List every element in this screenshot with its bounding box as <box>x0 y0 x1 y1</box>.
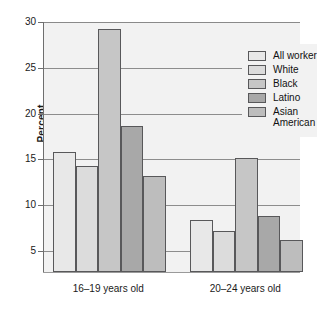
legend-item-label: All workers <box>273 50 317 61</box>
legend-swatch-icon <box>248 65 266 75</box>
legend-item[interactable]: Black <box>248 78 317 89</box>
x-axis-baseline <box>43 272 300 273</box>
legend-item[interactable]: White <box>248 64 317 75</box>
plot-top-border <box>44 22 300 23</box>
y-tick-label-10: 10 <box>2 200 36 210</box>
bar <box>258 216 281 272</box>
x-axis-group-label: 16–19 years old <box>48 283 168 294</box>
legend-swatch-icon <box>248 107 266 117</box>
y-tick-label-25: 25 <box>2 63 36 73</box>
legend-item[interactable]: Asian American <box>248 106 317 128</box>
y-tick-label-5: 5 <box>2 246 36 256</box>
bar <box>98 29 121 272</box>
bar <box>121 126 144 272</box>
legend-item[interactable]: Latino <box>248 92 317 103</box>
x-axis-group-label: 20–24 years old <box>185 283 305 294</box>
bar <box>280 240 303 272</box>
bar <box>53 152 76 272</box>
plot-area: All workersWhiteBlackLatinoAsian America… <box>43 22 300 272</box>
legend-swatch-icon <box>248 79 266 89</box>
y-tick-label-15: 15 <box>2 154 36 164</box>
bar <box>143 176 166 272</box>
bar <box>235 158 258 272</box>
bar <box>76 166 99 272</box>
bar-chart-figure: Percent 51015202530 All workersWhiteBlac… <box>0 0 317 312</box>
gridline-15 <box>44 159 300 160</box>
legend-item[interactable]: All workers <box>248 50 317 61</box>
legend-swatch-icon <box>248 93 266 103</box>
legend-item-label: White <box>273 64 299 75</box>
legend: All workersWhiteBlackLatinoAsian America… <box>242 44 317 137</box>
bar <box>213 231 236 272</box>
legend-item-label: Latino <box>273 92 300 103</box>
legend-item-label: Black <box>273 78 297 89</box>
bar <box>190 220 213 272</box>
legend-item-label: Asian American <box>273 106 315 128</box>
y-tick-label-30: 30 <box>2 17 36 27</box>
y-tick-label-20: 20 <box>2 109 36 119</box>
legend-swatch-icon <box>248 51 266 61</box>
